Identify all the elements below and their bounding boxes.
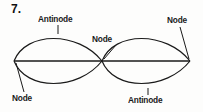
left-loop-upper-arc	[14, 39, 102, 62]
right-loop-upper-arc	[102, 39, 190, 62]
label-node-right: Node	[167, 15, 187, 25]
right-loop-lower-arc	[102, 61, 190, 84]
leader-line-node-bottom-left	[16, 63, 24, 92]
leader-line-node-center	[104, 45, 116, 59]
label-antinode-top: Antinode	[38, 14, 72, 24]
standing-wave-figure: 7. Antinode Node Node Node Antinode	[0, 0, 203, 112]
leader-line-node-right	[180, 27, 189, 59]
label-antinode-bottom: Antinode	[128, 95, 162, 105]
label-node-center: Node	[92, 34, 112, 44]
left-loop-lower-arc	[14, 61, 102, 84]
label-node-bottom-left: Node	[12, 93, 32, 103]
